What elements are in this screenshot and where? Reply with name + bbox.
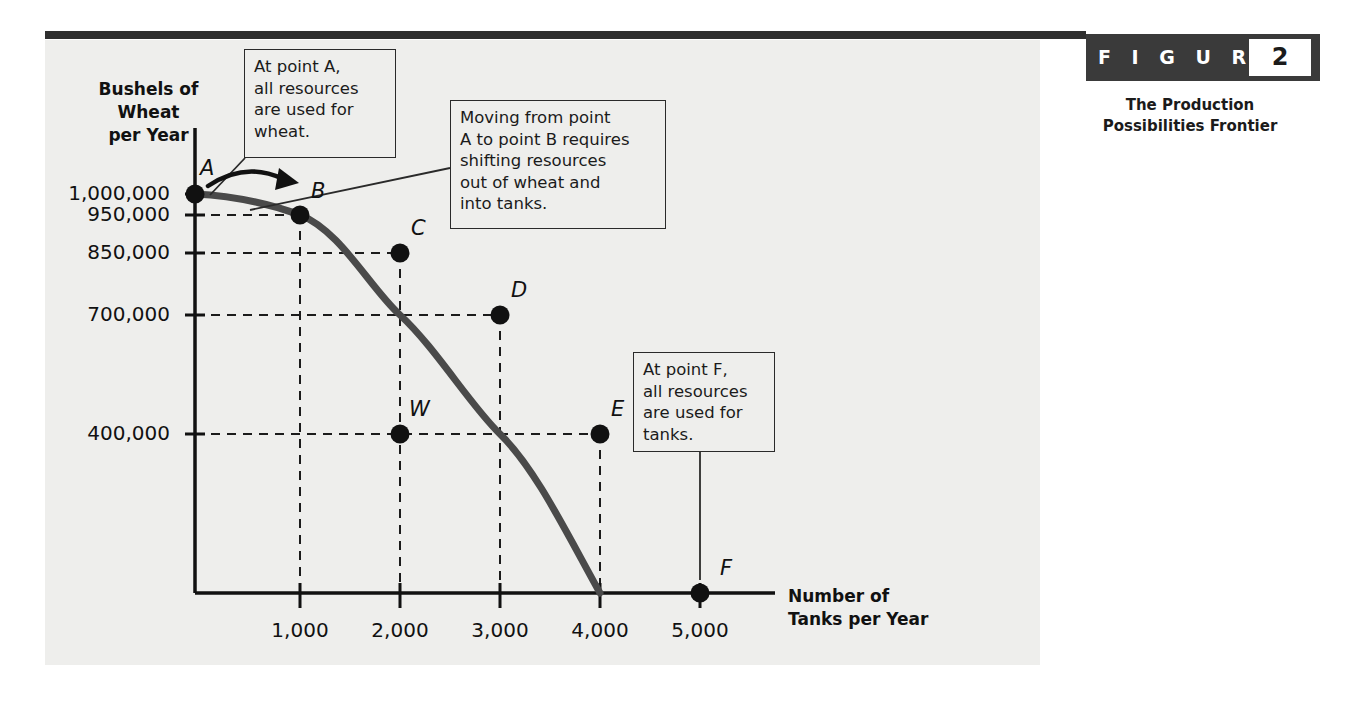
y-axis-title: Bushels of Wheat per Year — [81, 78, 216, 147]
x-tick-label-5000: 5,000 — [655, 618, 745, 642]
point-label-w: W — [409, 397, 430, 421]
callout-a-to-b-line-4: out of wheat and — [460, 172, 656, 194]
callout-point-f-line-1: At point F, — [643, 359, 765, 381]
callout-point-f-line-4: tanks. — [643, 424, 765, 446]
callout-point-a: At point A, all resources are used for w… — [244, 49, 396, 158]
callout-a-to-b-line-2: A to point B requires — [460, 129, 656, 151]
callout-point-a-line-2: all resources — [254, 78, 386, 100]
figure-top-rule — [45, 31, 1086, 39]
callout-point-f: At point F, all resources are used for t… — [633, 352, 775, 452]
figure-caption-line-2: Possibilities Frontier — [1040, 116, 1340, 137]
figure-caption-line-1: The Production — [1040, 95, 1340, 116]
point-label-a: A — [200, 156, 214, 180]
point-label-d: D — [511, 278, 527, 302]
callout-a-to-b-line-5: into tanks. — [460, 193, 656, 215]
y-tick-label-850000: 850,000 — [10, 240, 170, 264]
y-axis-title-line-3: per Year — [81, 124, 216, 147]
callout-a-to-b-line-3: shifting resources — [460, 150, 656, 172]
point-label-e: E — [611, 397, 624, 421]
guide-lines — [195, 215, 600, 593]
point-label-f: F — [720, 556, 732, 580]
y-axis-title-line-1: Bushels of — [81, 78, 216, 101]
figure-number: 2 — [1249, 39, 1311, 76]
point-label-c: C — [411, 216, 426, 240]
x-axis-title-line-1: Number of — [788, 585, 1008, 608]
x-tick-label-4000: 4,000 — [555, 618, 645, 642]
data-point-f — [691, 584, 710, 603]
x-tick-label-1000: 1,000 — [255, 618, 345, 642]
callout-a-to-b-line-1: Moving from point — [460, 107, 656, 129]
callout-point-f-line-2: all resources — [643, 381, 765, 403]
data-point-e — [591, 425, 610, 444]
x-tick-label-3000: 3,000 — [455, 618, 545, 642]
data-points — [186, 185, 710, 603]
callout-point-a-line-1: At point A, — [254, 56, 386, 78]
y-tick-label-700000: 700,000 — [10, 302, 170, 326]
figure-root: F I G U R E 2 The Production Possibiliti… — [0, 0, 1359, 703]
data-point-a — [186, 185, 205, 204]
x-tick-marks — [300, 583, 700, 608]
figure-number-box: 2 — [1249, 39, 1311, 76]
data-point-b — [291, 206, 310, 225]
point-label-b: B — [311, 179, 325, 203]
callout-point-a-line-3: are used for — [254, 99, 386, 121]
movement-arrow-a-to-b — [208, 168, 299, 190]
ppf-chart: Bushels of Wheat per Year Number of Tank… — [45, 40, 1040, 665]
x-tick-label-2000: 2,000 — [355, 618, 445, 642]
callout-point-a-line-4: wheat. — [254, 121, 386, 143]
callout-point-f-line-3: are used for — [643, 402, 765, 424]
data-point-d — [491, 306, 510, 325]
figure-caption: The Production Possibilities Frontier — [1040, 95, 1340, 137]
callout-a-to-b: Moving from point A to point B requires … — [450, 100, 666, 229]
y-tick-label-950000: 950,000 — [10, 202, 170, 226]
x-axis-title: Number of Tanks per Year — [788, 585, 1008, 631]
data-point-w — [391, 425, 410, 444]
data-point-c — [391, 244, 410, 263]
x-axis-title-line-2: Tanks per Year — [788, 608, 1008, 631]
figure-banner: F I G U R E 2 — [1086, 34, 1320, 81]
y-tick-label-400000: 400,000 — [10, 421, 170, 445]
y-axis-title-line-2: Wheat — [81, 101, 216, 124]
